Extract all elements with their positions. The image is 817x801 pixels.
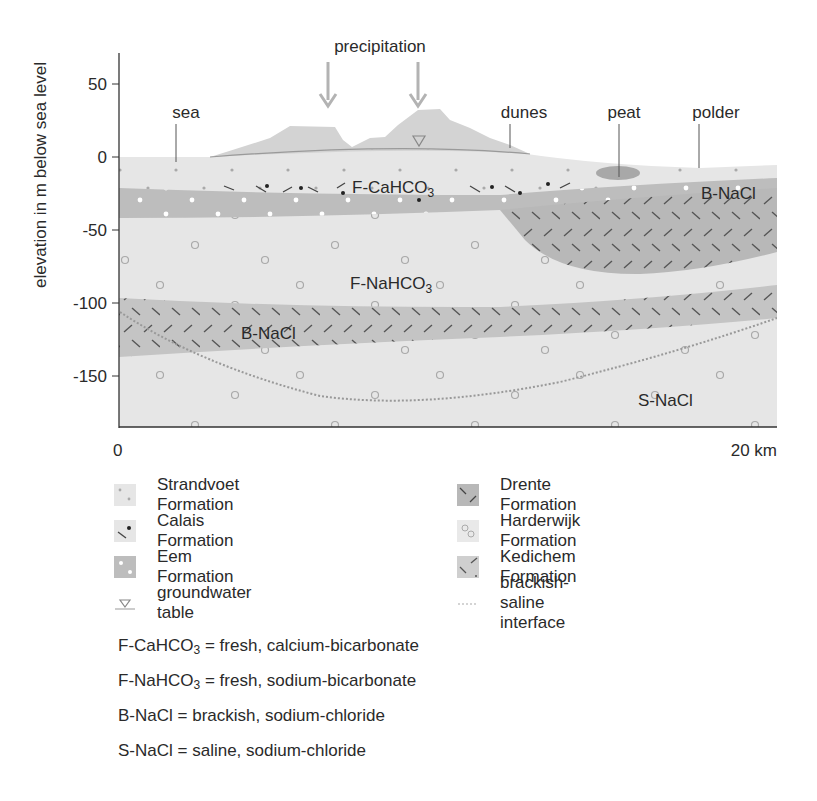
legend-item-calais: Calais Formation [114,520,234,542]
y-tick-label: -100 [73,294,107,313]
y-tick-label: -150 [73,367,107,386]
geology-layers [119,109,777,427]
legend-label: groundwater table [157,583,252,623]
polder-label: polder [692,103,740,122]
strandvoet-swatch [114,484,136,506]
legend-label: Drente Formation [500,475,577,515]
precipitation-label: precipitation [334,37,426,56]
legend-item-eem: Eem Formation [114,556,234,578]
definition-f-nahco3: F-NaHCO3 = fresh, sodium-bicarbonate [118,671,416,692]
zone-label-b-nacl-upper: B-NaCl [701,184,756,203]
interface-line-icon [457,592,479,614]
eem-swatch [114,556,136,578]
peat-lens [596,166,640,180]
legend-item-harderwijk: Harderwijk Formation [457,520,580,542]
kedichem-swatch [457,556,479,578]
zone-label-s-nacl: S-NaCl [638,391,693,410]
dunes-label: dunes [501,103,547,122]
y-tick-label: 50 [88,75,107,94]
peat-label: peat [607,103,640,122]
zone-label-b-nacl-lower: B-NaCl [241,324,296,343]
y-tick-label: 0 [98,148,107,167]
x-start-label: 0 [113,441,122,460]
definition-s-nacl: S-NaCl = saline, sodium-chloride [118,741,366,761]
definition-f-cahco3: F-CaHCO3 = fresh, calcium-bicarbonate [118,636,419,657]
legend-label: Strandvoet Formation [157,475,239,515]
legend-label: brackish-saline interface [500,573,569,633]
harderwijk-swatch [457,520,479,542]
zone-label-f-cahco3: F-CaHCO3 [352,178,435,200]
y-tick-label: -50 [82,221,107,240]
legend-item-drente: Drente Formation [457,484,577,506]
zone-label-f-nahco3: F-NaHCO3 [350,274,433,296]
legend-item-strandvoet: Strandvoet Formation [114,484,239,506]
legend-label: Harderwijk Formation [500,511,580,551]
y-axis-label: elevation in m below sea level [31,62,50,288]
precipitation-arrow-icon [410,62,426,106]
legend-item-interface: brackish-saline interface [457,592,569,614]
drente-swatch [457,484,479,506]
calais-swatch [114,520,136,542]
definition-b-nacl: B-NaCl = brackish, sodium-chloride [118,706,385,726]
x-end-label: 20 km [731,441,777,460]
legend-label: Eem Formation [157,547,234,587]
precipitation-arrow-icon [320,62,336,106]
legend-item-groundwater-table: groundwater table [114,592,252,614]
y-ticks [112,84,119,376]
groundwater-table-icon [114,592,136,614]
legend-label: Calais Formation [157,511,234,551]
sea-label: sea [172,103,200,122]
